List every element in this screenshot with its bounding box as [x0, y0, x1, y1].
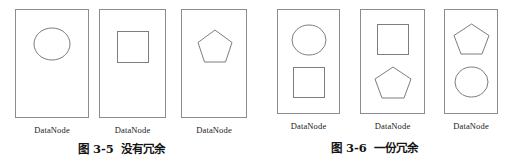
- shape-circle: [454, 66, 489, 98]
- shape-square: [377, 24, 409, 55]
- datanode-label: DataNode: [115, 125, 151, 135]
- figure-caption-3-6: 图 3-6一份冗余: [331, 141, 418, 155]
- datanode-row: DataNode DataNode DataNode: [0, 0, 262, 140]
- shape-pentagon: [197, 29, 233, 63]
- figure-caption-number: 图 3-5: [78, 142, 114, 156]
- shape-square: [293, 67, 325, 98]
- figure-group-no-redundancy: DataNode DataNode DataNode: [0, 0, 262, 162]
- datanode-label: DataNode: [453, 121, 489, 131]
- shape-circle: [291, 24, 327, 56]
- datanode-label: DataNode: [291, 121, 327, 131]
- datanode-box: [15, 9, 89, 118]
- datanode-label: DataNode: [196, 125, 232, 135]
- figure-caption-3-5: 图 3-5没有冗余: [78, 142, 165, 156]
- figure-caption-text: 没有冗余: [121, 142, 165, 156]
- datanode-label: DataNode: [375, 121, 411, 131]
- datanode-row: DataNode DataNode: [262, 0, 515, 140]
- figure-group-one-replica: DataNode DataNode: [262, 0, 515, 162]
- datanode-box: [99, 9, 166, 118]
- shape-pentagon: [374, 66, 412, 99]
- shape-pentagon: [453, 23, 490, 55]
- figure-root: DataNode DataNode DataNode: [0, 0, 515, 162]
- figure-caption-number: 图 3-6: [331, 141, 367, 155]
- figure-caption-text: 一份冗余: [374, 141, 418, 155]
- datanode-label: DataNode: [34, 125, 70, 135]
- shape-circle: [33, 27, 71, 61]
- shape-square: [117, 31, 149, 63]
- datanode-box: [181, 9, 247, 118]
